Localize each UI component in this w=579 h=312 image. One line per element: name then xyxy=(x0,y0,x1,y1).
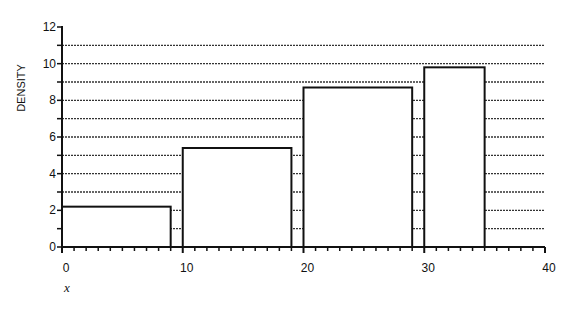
x-ticks: 010203040 xyxy=(62,247,556,275)
histogram-bar xyxy=(304,88,413,248)
y-tick-label: 12 xyxy=(43,20,57,34)
histogram-bar xyxy=(424,67,484,247)
y-axis-title: DENSITY xyxy=(15,64,27,112)
x-tick-label: 20 xyxy=(301,261,315,275)
histogram-bar xyxy=(183,148,292,247)
histogram-chart: 010203040 024681012 DENSITY x xyxy=(0,0,579,312)
x-tick-label: 30 xyxy=(422,261,436,275)
x-tick-label: 0 xyxy=(63,261,70,275)
y-tick-label: 6 xyxy=(49,130,56,144)
y-tick-label: 10 xyxy=(43,57,57,71)
y-tick-label: 2 xyxy=(49,203,56,217)
x-axis-title: x xyxy=(63,280,70,295)
x-tick-label: 10 xyxy=(180,261,194,275)
histogram-bar xyxy=(62,207,171,247)
x-tick-label: 40 xyxy=(542,261,556,275)
y-ticks: 024681012 xyxy=(43,20,62,254)
y-tick-label: 4 xyxy=(49,167,56,181)
y-tick-label: 0 xyxy=(49,240,56,254)
bars xyxy=(62,67,485,247)
y-tick-label: 8 xyxy=(49,93,56,107)
